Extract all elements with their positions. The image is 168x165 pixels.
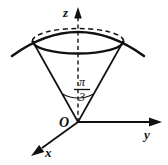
angle-label: π 3 [74,75,90,104]
origin-label: O [59,115,69,130]
cone-sphere-diagram: z y x O π 3 [0,0,168,165]
x-axis-arrowhead [31,145,44,156]
x-axis-label: x [44,145,52,160]
z-axis-label: z [62,5,69,20]
math-figure: z y x O π 3 [0,0,168,165]
z-axis-arrowhead [74,7,82,19]
y-axis-label: y [142,127,150,142]
y-axis-arrowhead [149,118,162,127]
angle-numerator: π [79,75,86,89]
angle-denominator: 3 [78,90,85,104]
